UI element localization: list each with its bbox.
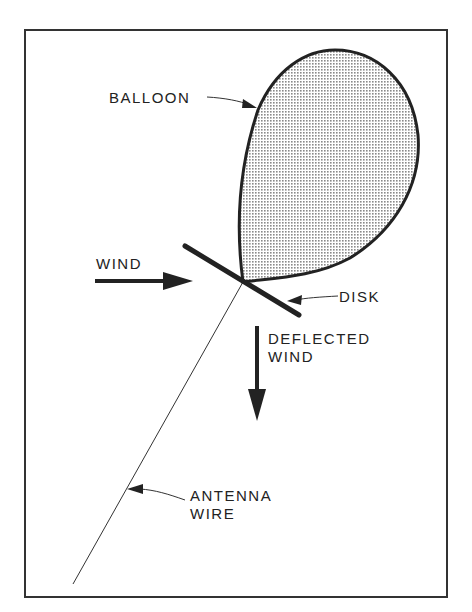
- balloon-leader-arrow-icon: [207, 97, 257, 108]
- deflected-wind-arrow-icon: [248, 326, 266, 421]
- antenna-wire-label-line1: ANTENNA: [190, 487, 272, 504]
- balloon-antenna-diagram: BALLOON WIND DISK DEFLECTED WIND ANTENNA…: [0, 0, 472, 612]
- antenna-wire-label-line2: WIRE: [190, 505, 235, 522]
- wind-label: WIND: [96, 255, 142, 272]
- deflected-wind-label-line2: WIND: [268, 348, 314, 365]
- balloon-shape: [239, 50, 418, 282]
- deflected-wind-label-line1: DEFLECTED: [268, 330, 371, 347]
- disk-leader-arrow-icon: [287, 295, 338, 305]
- wind-arrow-icon: [95, 272, 193, 290]
- balloon-label: BALLOON: [109, 89, 190, 106]
- disk-label: DISK: [339, 288, 380, 305]
- antenna-leader-arrow-icon: [127, 484, 185, 500]
- antenna-wire: [73, 282, 243, 584]
